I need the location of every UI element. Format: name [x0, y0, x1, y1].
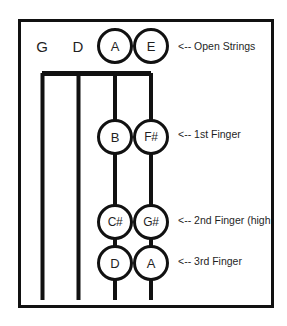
- string-label-d: D: [65, 39, 91, 54]
- note-label-open-e: E: [134, 40, 168, 53]
- note-label-first-finger-a: B: [98, 131, 132, 144]
- annotation-open-strings: <-- Open Strings: [178, 41, 255, 52]
- annotation-column: <-- Open Strings <-- 1st Finger <-- 2nd …: [178, 0, 271, 326]
- note-label-second-finger-a: C#: [98, 216, 132, 229]
- string-label-g: G: [29, 39, 55, 54]
- note-label-second-finger-e: G#: [134, 216, 168, 229]
- annotation-second-finger: <-- 2nd Finger (high: [178, 215, 271, 226]
- annotation-first-finger: <-- 1st Finger: [178, 129, 241, 140]
- violin-fingerboard-diagram: G D A E B F# C# G# D A <-- Open Strings …: [0, 0, 287, 326]
- annotation-third-finger: <-- 3rd Finger: [178, 256, 242, 267]
- note-label-open-a: A: [98, 40, 132, 53]
- note-label-third-finger-a: D: [98, 257, 132, 270]
- note-label-first-finger-e: F#: [134, 131, 168, 144]
- note-label-third-finger-e: A: [134, 257, 168, 270]
